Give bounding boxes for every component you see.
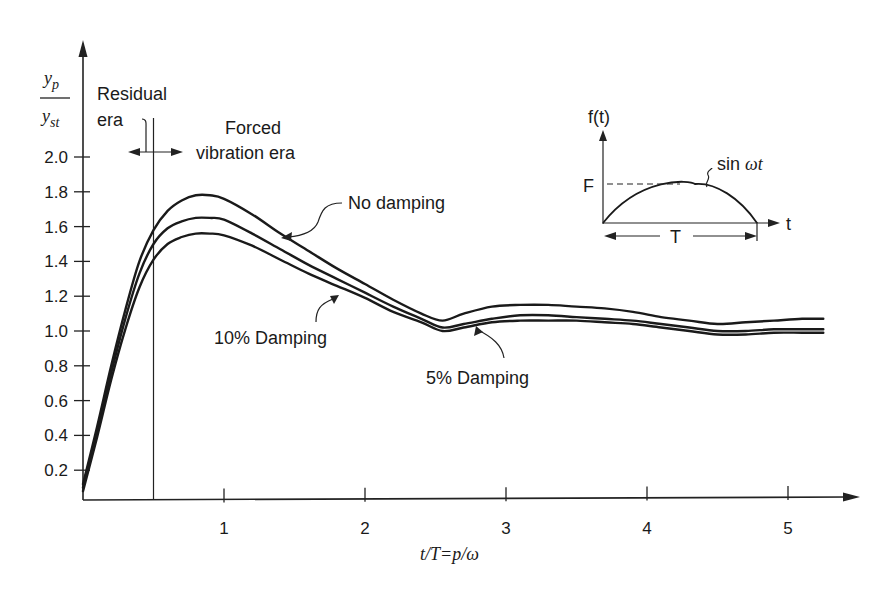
inset-curve-label-prefix: sin xyxy=(717,154,745,174)
curve-5-pct-damping xyxy=(83,218,823,488)
y-tick-label: 1.0 xyxy=(44,322,68,341)
y-tick-label: 1.2 xyxy=(44,287,68,306)
no-damping-arrow-icon xyxy=(281,232,292,241)
ten-pct-damping-leader xyxy=(316,299,333,322)
era-arrow-right-icon xyxy=(171,148,183,156)
x-tick-label: 5 xyxy=(783,519,792,538)
inset-y-label: f(t) xyxy=(588,107,610,127)
inset-x-label: t xyxy=(786,214,791,234)
x-ticks: 12345 xyxy=(219,486,792,538)
axes xyxy=(79,40,861,502)
x-axis-arrow-icon xyxy=(843,493,860,502)
x-axis xyxy=(83,497,848,500)
inset-peak-label: F xyxy=(583,176,594,196)
five-pct-damping-leader xyxy=(478,330,504,358)
y-tick-label: 1.4 xyxy=(44,252,68,271)
y-tick-label: 0.2 xyxy=(44,461,68,480)
x-axis-title: t/T=p/ω xyxy=(420,544,479,564)
ten-pct-damping-label: 10% Damping xyxy=(214,328,327,348)
residual-era-label-line2: era xyxy=(97,110,124,130)
inset-half-sine-curve xyxy=(603,182,757,223)
y-label-denominator: yst xyxy=(40,106,60,130)
y-tick-label: 1.8 xyxy=(44,183,68,202)
inset-pulse-diagram: f(t) t F T sin ωt xyxy=(583,107,791,247)
no-damping-leader xyxy=(288,203,342,237)
no-damping-label: No damping xyxy=(348,193,445,213)
residual-era-leader xyxy=(142,119,146,152)
y-label-numerator: yp xyxy=(42,68,59,92)
era-divider: Residual era Forced vibration era xyxy=(97,84,296,499)
residual-era-label-line1: Residual xyxy=(97,84,167,104)
y-tick-label: 0.6 xyxy=(44,392,68,411)
forced-era-label-line1: Forced xyxy=(225,118,281,138)
era-arrow-left-icon xyxy=(128,148,140,156)
x-tick-label: 1 xyxy=(219,519,228,538)
inset-duration-arrow-left-icon xyxy=(604,232,616,240)
y-axis-label: yp yst xyxy=(40,68,70,130)
curve-10-pct-damping xyxy=(83,233,823,491)
y-tick-label: 0.8 xyxy=(44,357,68,376)
x-axis-label: t/T=p/ω xyxy=(420,544,479,564)
response-spectrum-chart: 0.20.40.60.81.01.21.41.61.82.0 12345 yp … xyxy=(0,0,892,594)
y-tick-label: 1.6 xyxy=(44,218,68,237)
x-tick-label: 2 xyxy=(360,519,369,538)
response-curves xyxy=(83,195,823,491)
inset-duration-label: T xyxy=(670,227,681,247)
curve-annotations: No damping 10% Damping 5% Damping xyxy=(214,193,529,388)
x-tick-label: 3 xyxy=(501,519,510,538)
inset-curve-label-omega-t: ωt xyxy=(745,154,764,174)
forced-era-label-line2: vibration era xyxy=(196,143,296,163)
y-axis-arrow-icon xyxy=(79,40,88,57)
curve-no-damping xyxy=(83,195,823,484)
inset-duration-arrow-right-icon xyxy=(745,232,757,240)
x-tick-label: 4 xyxy=(642,519,651,538)
y-tick-label: 2.0 xyxy=(44,148,68,167)
y-tick-label: 0.4 xyxy=(44,426,68,445)
inset-curve-label: sin ωt xyxy=(717,154,764,174)
five-pct-damping-arrow-icon xyxy=(474,326,483,336)
five-pct-damping-label: 5% Damping xyxy=(426,368,529,388)
inset-x-arrow-icon xyxy=(768,219,780,227)
inset-y-arrow-icon xyxy=(599,130,607,141)
